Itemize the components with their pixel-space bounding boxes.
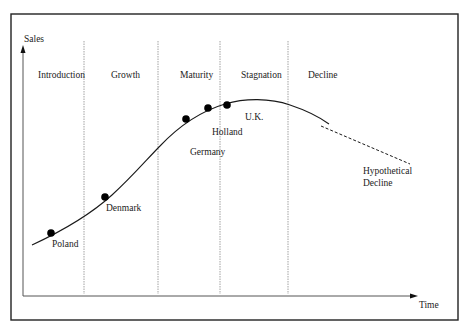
- stage-label-stagnation: Stagnation: [241, 70, 282, 80]
- y-axis-arrow-icon: [21, 45, 26, 53]
- x-axis-label: Time: [419, 300, 439, 310]
- country-label-uk: U.K.: [245, 112, 263, 122]
- stage-label-decline: Decline: [308, 70, 338, 80]
- country-label-germany: Germany: [190, 147, 226, 157]
- hypothetical-decline-curve: [321, 126, 410, 164]
- stage-label-introduction: Introduction: [38, 70, 85, 80]
- country-label-denmark: Denmark: [106, 203, 142, 213]
- country-label-holland: Holland: [212, 127, 243, 137]
- sales-curve: [32, 100, 329, 245]
- product-life-cycle-diagram: Sales Time Introduction Growth Maturity …: [0, 0, 469, 327]
- hypothetical-label-line1: Hypothetical: [363, 166, 412, 176]
- point-denmark: [101, 193, 109, 201]
- stage-label-maturity: Maturity: [180, 70, 213, 80]
- point-uk: [223, 101, 231, 109]
- point-poland: [47, 229, 55, 237]
- point-holland: [204, 104, 212, 112]
- stage-label-growth: Growth: [111, 70, 140, 80]
- point-germany: [182, 115, 190, 123]
- country-label-poland: Poland: [52, 239, 79, 249]
- y-axis-label: Sales: [24, 34, 44, 44]
- hypothetical-label-line2: Decline: [363, 178, 393, 188]
- x-axis-arrow-icon: [410, 294, 418, 299]
